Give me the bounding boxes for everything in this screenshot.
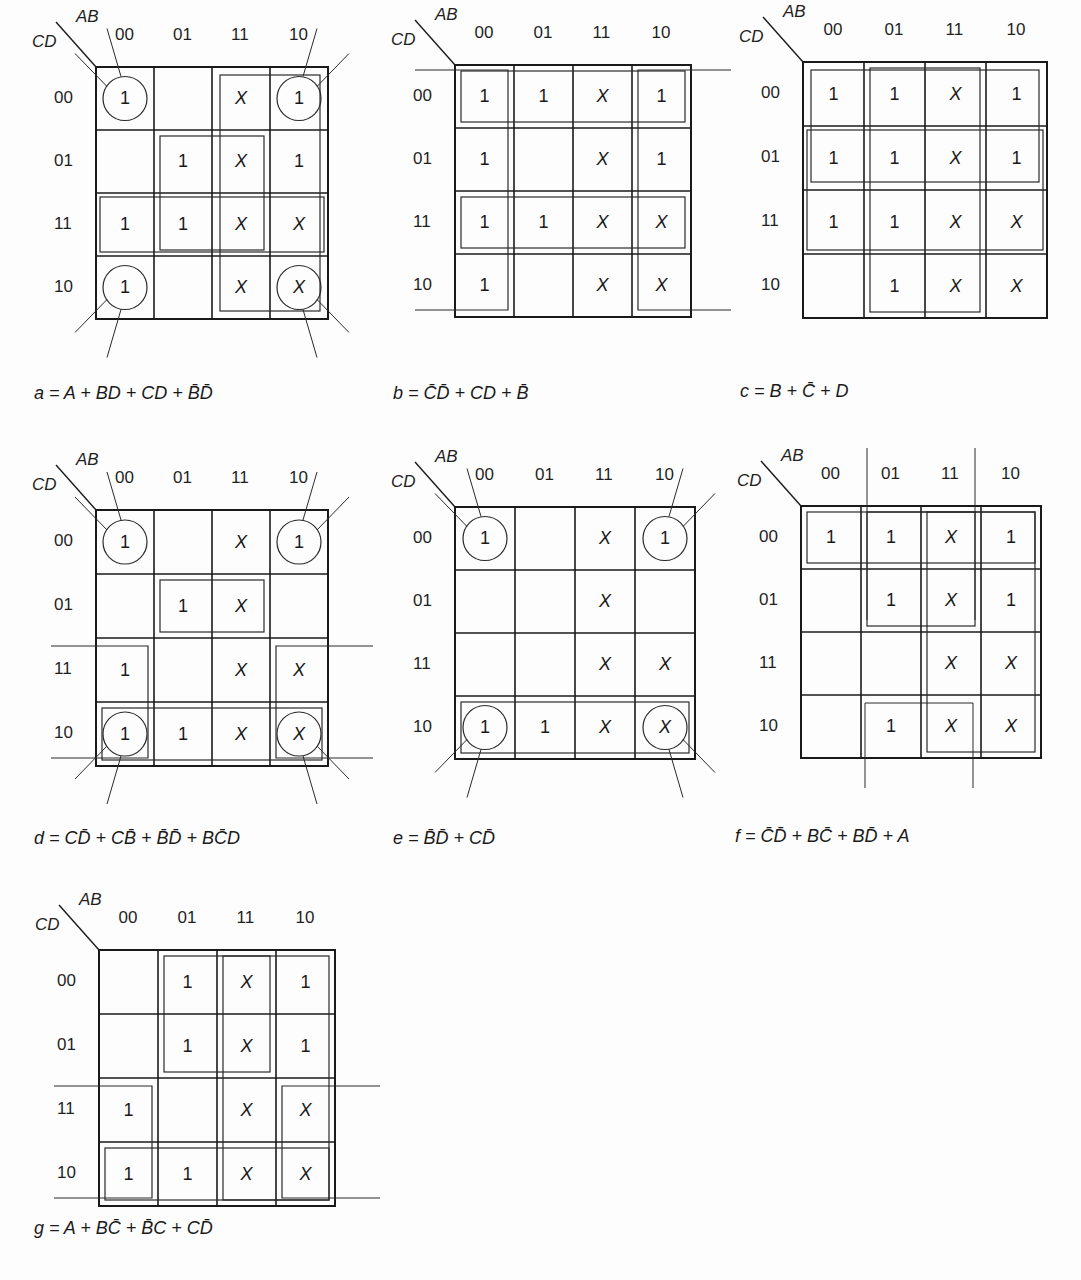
row-label: 11 xyxy=(57,1099,75,1119)
kmap-cell: X xyxy=(217,950,276,1014)
kmap-cell: 1 xyxy=(99,1078,158,1142)
kmap-cell: X xyxy=(276,1142,335,1206)
row-label: 10 xyxy=(57,1163,76,1183)
kmap-cell: 1 xyxy=(158,950,217,1014)
kmap-cell: 1 xyxy=(276,950,335,1014)
kmap-cell: 1 xyxy=(158,1014,217,1078)
col-label: 01 xyxy=(178,908,197,928)
kmap-cell xyxy=(158,1078,217,1142)
row-variable-label: CD xyxy=(35,915,60,935)
col-label: 10 xyxy=(296,908,315,928)
kmap-cell xyxy=(99,950,158,1014)
kmap-cell: 1 xyxy=(158,1142,217,1206)
kmap-cell: X xyxy=(217,1014,276,1078)
row-label: 00 xyxy=(57,971,76,991)
kmap-cell: X xyxy=(217,1142,276,1206)
col-variable-label: AB xyxy=(79,890,102,910)
kmap-g: ABCD00011110000111101X11X11XX11XXg = A +… xyxy=(0,0,340,400)
kmap-cell: 1 xyxy=(99,1142,158,1206)
kmap-cell xyxy=(99,1014,158,1078)
kmap-cell: 1 xyxy=(276,1014,335,1078)
kmap-cell: X xyxy=(276,1078,335,1142)
col-label: 11 xyxy=(237,908,255,928)
col-label: 00 xyxy=(119,908,138,928)
kmap-cell: X xyxy=(217,1078,276,1142)
row-label: 01 xyxy=(57,1035,76,1055)
boolean-expression: g = A + BC̄ + B̄C + CD̄ xyxy=(34,1218,213,1239)
